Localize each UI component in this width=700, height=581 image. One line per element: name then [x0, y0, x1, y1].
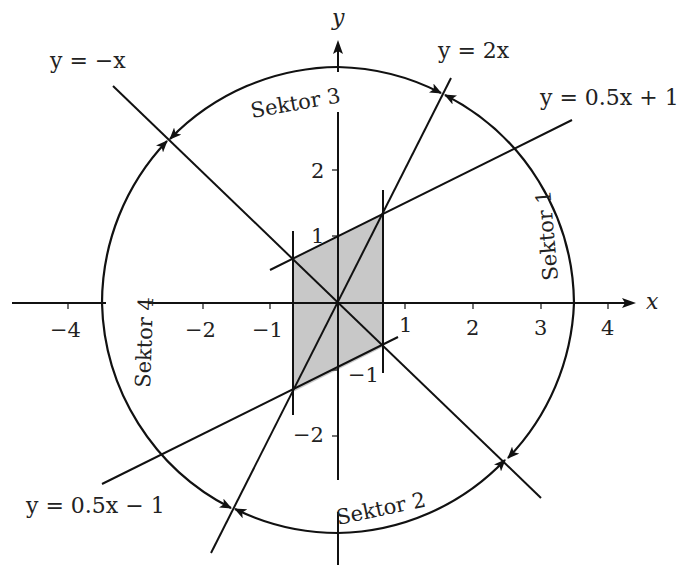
- label-sektor-3: Sektor 3: [249, 84, 342, 123]
- y-tick-label: 2: [311, 159, 324, 183]
- label-sektor-1: Sektor 1: [531, 189, 563, 281]
- label-two-x: y = 2x: [437, 38, 510, 63]
- arc-sektor2-left: [235, 509, 338, 533]
- arc-sektor3-right: [338, 67, 441, 93]
- x-tick-label: 3: [534, 316, 547, 340]
- label-half-x-plus-1: y = 0.5x + 1: [539, 85, 679, 110]
- label-sektor-2: Sektor 2: [334, 488, 428, 530]
- arc-sektor4-top: [102, 141, 167, 303]
- y-axis-label: y: [331, 5, 345, 30]
- sector-diagram: −4 −2 −1 1 2 3 4 2 1 −1 −2 x y: [0, 0, 700, 581]
- x-tick-label: 2: [466, 316, 479, 340]
- x-tick-label: −4: [50, 318, 81, 342]
- x-tick-label: −2: [185, 318, 216, 342]
- label-sektor-4: Sektor 4: [131, 297, 158, 388]
- line-two-x: [211, 78, 451, 553]
- y-tick-label: −1: [348, 363, 379, 387]
- y-tick-label: −2: [293, 423, 324, 447]
- x-tick-label: 4: [601, 316, 614, 340]
- x-tick-label: −1: [252, 318, 283, 342]
- line-half-x-plus-1: [270, 120, 572, 270]
- x-tick-label: 1: [399, 313, 412, 337]
- x-axis-label: x: [646, 289, 659, 314]
- label-neg-x: y = −x: [49, 48, 126, 73]
- line-neg-x: [113, 86, 541, 498]
- label-half-x-minus-1: y = 0.5x − 1: [25, 493, 165, 518]
